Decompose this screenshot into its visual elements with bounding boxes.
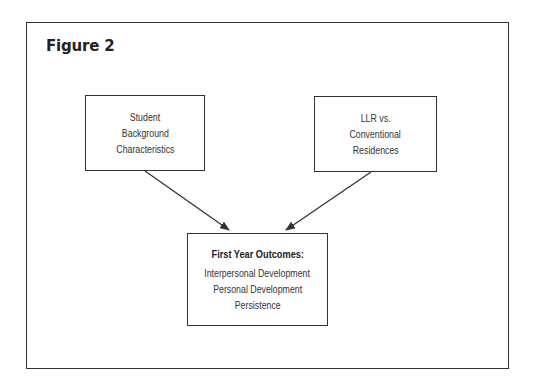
node-line: Residences xyxy=(352,142,398,158)
node-heading: First Year Outcomes: xyxy=(211,246,303,262)
node-llr-vs-conventional: LLR vs. Conventional Residences xyxy=(314,96,437,172)
node-line: Persistence xyxy=(234,297,280,313)
node-line: LLR vs. xyxy=(361,110,391,126)
node-line: Interpersonal Development xyxy=(205,265,311,281)
node-line: Conventional xyxy=(350,126,401,142)
node-line: Background xyxy=(122,125,169,141)
node-first-year-outcomes: First Year Outcomes: Interpersonal Devel… xyxy=(187,233,328,326)
node-line: Personal Development xyxy=(213,281,302,297)
node-student-background: Student Background Characteristics xyxy=(85,95,205,171)
figure-title: Figure 2 xyxy=(46,37,114,55)
node-line: Student xyxy=(130,109,160,125)
node-line: Characteristics xyxy=(116,141,174,157)
